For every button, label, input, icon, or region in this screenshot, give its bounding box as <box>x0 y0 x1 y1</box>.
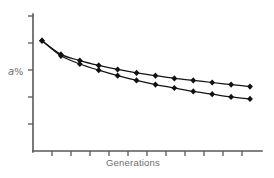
data-point-marker <box>134 70 140 76</box>
y-axis-label: a% <box>8 66 24 77</box>
data-point-marker <box>209 79 215 85</box>
x-axis <box>33 151 262 156</box>
data-point-marker <box>153 73 159 79</box>
series-line-lower-curve <box>42 41 250 99</box>
data-point-marker <box>96 67 102 73</box>
data-point-marker <box>134 77 140 83</box>
data-point-marker <box>115 73 121 79</box>
data-point-marker <box>190 77 196 83</box>
x-axis-label: Generations <box>106 157 160 168</box>
data-point-marker <box>209 91 215 97</box>
data-series-layer <box>39 38 253 102</box>
data-point-marker <box>171 75 177 81</box>
series-line-upper-curve <box>42 41 250 87</box>
y-axis-label-unit: % <box>14 66 23 77</box>
data-point-marker <box>77 61 83 67</box>
chart-figure: a% Generations <box>0 0 274 178</box>
data-point-marker <box>247 96 253 102</box>
y-axis <box>28 14 33 152</box>
data-point-marker <box>247 84 253 90</box>
data-point-marker <box>153 81 159 87</box>
data-point-marker <box>190 88 196 94</box>
data-point-marker <box>171 85 177 91</box>
chart-plot-area <box>0 0 274 178</box>
data-point-marker <box>228 94 234 100</box>
data-point-marker <box>115 66 121 72</box>
data-point-marker <box>228 81 234 87</box>
